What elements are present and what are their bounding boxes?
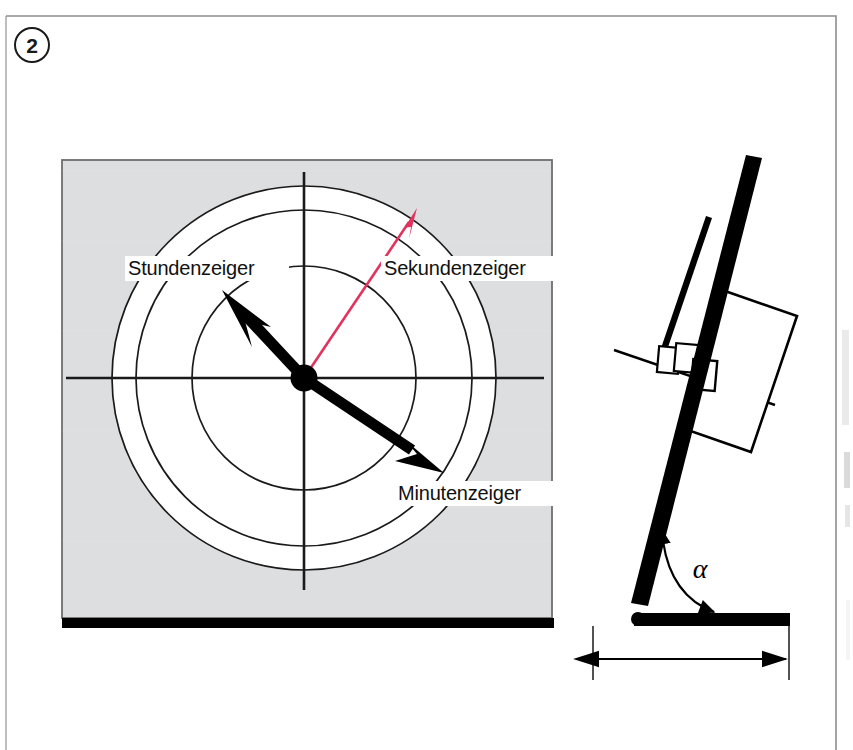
hour-hand-label: Stundenzeiger — [125, 256, 289, 281]
minute-hand-label: Minutenzeiger — [395, 481, 558, 506]
hour-hand-label-text: Stundenzeiger — [128, 257, 255, 279]
figure-page: 2 — [0, 0, 853, 750]
scan-artifacts — [842, 330, 850, 660]
tilted-stand-diagram: α — [593, 155, 797, 680]
minute-hand-label-text: Minutenzeiger — [398, 482, 522, 504]
angle-symbol: α — [693, 553, 709, 584]
clock-base-bar — [62, 618, 554, 628]
center-hub — [291, 365, 318, 392]
clock-face-panel: Stundenzeiger Sekundenzeiger Minutenzeig… — [62, 160, 561, 628]
marker-number-text: 2 — [26, 34, 38, 57]
base-arm — [634, 613, 790, 626]
figure-number-marker: 2 — [15, 28, 49, 62]
second-hand-label-text: Sekundenzeiger — [384, 257, 526, 279]
corner-joint — [631, 612, 645, 626]
figure-canvas: 2 — [0, 0, 853, 750]
second-hand-label: Sekundenzeiger — [381, 256, 561, 281]
